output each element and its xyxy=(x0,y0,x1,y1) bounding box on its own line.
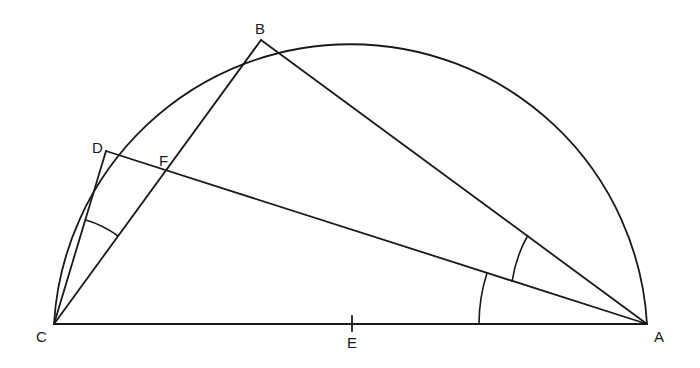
segment-CD xyxy=(54,151,106,324)
segment-CB xyxy=(54,40,261,324)
label-C: C xyxy=(36,328,47,345)
label-B: B xyxy=(255,20,265,37)
angle-mark-C xyxy=(86,220,118,236)
label-E: E xyxy=(347,334,357,351)
geometry-diagram: B D F C E A xyxy=(0,0,700,368)
label-D: D xyxy=(92,139,103,156)
segment-DA xyxy=(106,151,647,324)
label-A: A xyxy=(654,328,664,345)
angle-mark-A-lower xyxy=(479,273,487,324)
label-F: F xyxy=(159,152,168,169)
semicircle-arc xyxy=(54,44,647,324)
segment-BA xyxy=(261,40,647,324)
angle-mark-A-upper xyxy=(512,235,528,282)
